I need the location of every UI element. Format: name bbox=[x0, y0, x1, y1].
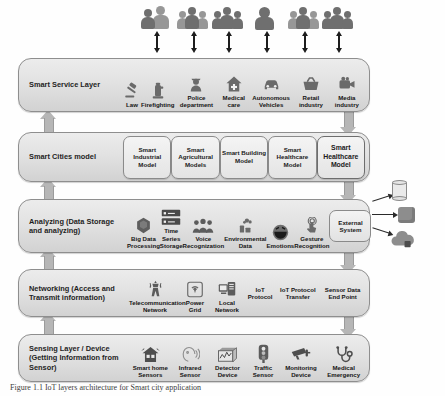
sensing-item-detector-device[interactable]: Detector Device bbox=[209, 332, 247, 381]
analyzing-item-time-series[interactable]: Time Series Storage bbox=[160, 197, 183, 252]
layer-smart-cities-model[interactable]: Smart Cities model Smart Industrial Mode… bbox=[18, 132, 370, 182]
networking-items: Telecommunication Network Power Grid Loc… bbox=[129, 270, 365, 316]
layer-title-cities: Smart Cities model bbox=[29, 152, 121, 161]
sensing-item-smart-home-sensors[interactable]: Smart home Sensors bbox=[129, 332, 172, 381]
smart-home-icon bbox=[141, 345, 160, 363]
wifi-signal-icon bbox=[187, 281, 203, 298]
traffic-light-icon bbox=[257, 344, 270, 363]
service-label: Law bbox=[126, 101, 138, 108]
layer-smart-service[interactable]: Smart Service Layer Law Firefighting Pol… bbox=[18, 58, 370, 112]
networking-item-power-grid[interactable]: Power Grid bbox=[181, 267, 209, 316]
service-item-media-industry[interactable]: Media industry bbox=[329, 56, 365, 111]
analyzing-item-voice-recognization[interactable]: Voice Recognization bbox=[183, 197, 225, 252]
actor-group-4 bbox=[250, 4, 284, 54]
service-item-police[interactable]: Police department bbox=[175, 56, 219, 111]
database-cylinder-icon bbox=[392, 180, 407, 201]
networking-label: Power Grid bbox=[181, 299, 209, 313]
networking-item-sensor-data-end-point[interactable]: Sensor Data End Point bbox=[320, 270, 365, 316]
analyzing-item-emotions[interactable]: Emotions bbox=[267, 197, 295, 252]
layer-networking[interactable]: Networking (Access and Transmit informat… bbox=[18, 269, 370, 317]
analyzing-label: Environmental Data bbox=[224, 235, 266, 249]
sensing-label: Medical Emergency bbox=[322, 364, 365, 378]
service-item-law[interactable]: Law bbox=[123, 56, 141, 111]
person-icon bbox=[250, 4, 284, 30]
analyzing-item-environmental-data[interactable]: Environmental Data bbox=[224, 197, 266, 252]
networking-item-iot-protocol-transfer[interactable]: IoT Protocol Transfer bbox=[275, 270, 320, 316]
bidirectional-arrow bbox=[192, 31, 196, 53]
smiley-face-icon bbox=[271, 224, 290, 241]
service-label: Retail industry bbox=[293, 94, 329, 108]
service-label: Police department bbox=[175, 94, 219, 108]
networking-label: Sensor Data End Point bbox=[320, 286, 365, 300]
sensing-item-monitoring-device[interactable]: Monitoring Device bbox=[280, 332, 323, 381]
hexagon-database-icon bbox=[135, 217, 152, 234]
cloud-storage-icon bbox=[390, 230, 416, 249]
service-label: Autonomous Vehicles bbox=[249, 94, 293, 108]
model-box-healthcare-highlight[interactable]: Smart Healthcare Model bbox=[317, 136, 365, 179]
networking-label: IoT Protocol bbox=[245, 286, 276, 300]
analyzing-label: Gesture Recognition bbox=[294, 235, 329, 249]
bidirectional-arrow bbox=[337, 31, 341, 53]
networking-item-telecommunication-network[interactable]: Telecommunication Network bbox=[129, 267, 181, 316]
server-cube-icon bbox=[398, 207, 415, 223]
cctv-camera-icon bbox=[291, 347, 311, 363]
analyzing-label: Time Series Storage bbox=[160, 227, 183, 249]
bidirectional-arrow bbox=[303, 31, 307, 53]
radio-tower-icon bbox=[147, 279, 164, 298]
server-rack-icon bbox=[161, 209, 181, 226]
police-officer-icon bbox=[187, 75, 205, 93]
analyzing-item-gesture-recognition[interactable]: Gesture Recognition bbox=[294, 197, 329, 252]
model-box-building[interactable]: Smart Building Model bbox=[220, 136, 268, 179]
actor-group-3 bbox=[212, 4, 246, 54]
analyzing-items: Big Data Processing Time Series Storage … bbox=[127, 200, 365, 252]
sensing-item-medical-emergency[interactable]: Medical Emergency bbox=[322, 332, 365, 381]
networking-item-local-network[interactable]: Local Network bbox=[209, 267, 245, 316]
medical-house-icon bbox=[225, 75, 243, 93]
sensing-label: Detector Device bbox=[209, 364, 247, 378]
actor-group-1 bbox=[140, 4, 174, 54]
service-item-retail-industry[interactable]: Retail industry bbox=[293, 56, 329, 111]
service-label: Medical care bbox=[218, 94, 249, 108]
analyzing-item-big-data[interactable]: Big Data Processing bbox=[127, 197, 160, 252]
crowd-voice-icon bbox=[192, 217, 214, 234]
face-scan-icon bbox=[181, 345, 200, 363]
arrow-to-database bbox=[372, 195, 390, 202]
networking-label: IoT Protocol Transfer bbox=[275, 286, 320, 300]
stakeholders-row bbox=[0, 0, 445, 54]
service-items: Law Firefighting Police department Medic… bbox=[123, 59, 365, 111]
sensing-item-traffic-sensor[interactable]: Traffic Sensor bbox=[246, 332, 279, 381]
service-item-autonomous-vehicles[interactable]: Autonomous Vehicles bbox=[249, 56, 293, 111]
bidirectional-arrow bbox=[265, 31, 269, 53]
figure-caption: Figure 1.1 IoT layers architecture for S… bbox=[10, 382, 430, 393]
model-box-agricultural[interactable]: Smart Agricultural Models bbox=[171, 136, 219, 179]
layer-title-service: Smart Service Layer bbox=[29, 80, 121, 89]
layer-sensing-device[interactable]: Sensing Layer / Device (Getting Informat… bbox=[18, 334, 370, 382]
model-box-healthcare[interactable]: Smart Healthcare Model bbox=[268, 136, 316, 179]
service-item-medical-care[interactable]: Medical care bbox=[218, 56, 249, 111]
sensing-label: Monitoring Device bbox=[280, 364, 323, 378]
analyzing-item-external-system[interactable]: External System bbox=[329, 200, 371, 252]
networking-item-iot-protocol[interactable]: IoT Protocol bbox=[245, 270, 276, 316]
computer-network-icon bbox=[218, 281, 236, 298]
arrow-to-server bbox=[372, 214, 394, 215]
networking-label: Local Network bbox=[209, 299, 245, 313]
bidirectional-arrow bbox=[155, 31, 159, 53]
service-item-firefighting[interactable]: Firefighting bbox=[141, 56, 175, 111]
detector-box-icon bbox=[217, 346, 238, 363]
factory-emission-icon bbox=[237, 217, 254, 234]
hand-touch-icon bbox=[303, 217, 320, 234]
people-icon bbox=[288, 4, 322, 30]
analyzing-label: Big Data Processing bbox=[127, 235, 160, 249]
model-box-industrial[interactable]: Smart Industrial Model bbox=[123, 136, 171, 179]
people-icon bbox=[140, 4, 174, 30]
fire-hydrant-icon bbox=[149, 82, 167, 100]
layer-analyzing[interactable]: Analyzing (Data Storage and analyzing) B… bbox=[18, 199, 370, 253]
stethoscope-icon bbox=[334, 346, 353, 363]
external-system-box[interactable]: External System bbox=[329, 210, 371, 242]
people-icon bbox=[177, 4, 211, 30]
analyzing-label: Voice Recognization bbox=[183, 235, 225, 249]
video-camera-icon bbox=[338, 75, 356, 93]
sensing-items: Smart home Sensors Infrared Sensor Detec… bbox=[129, 335, 365, 381]
actor-group-5 bbox=[288, 4, 322, 54]
sensing-item-infrared-sensor[interactable]: Infrared Sensor bbox=[172, 332, 209, 381]
